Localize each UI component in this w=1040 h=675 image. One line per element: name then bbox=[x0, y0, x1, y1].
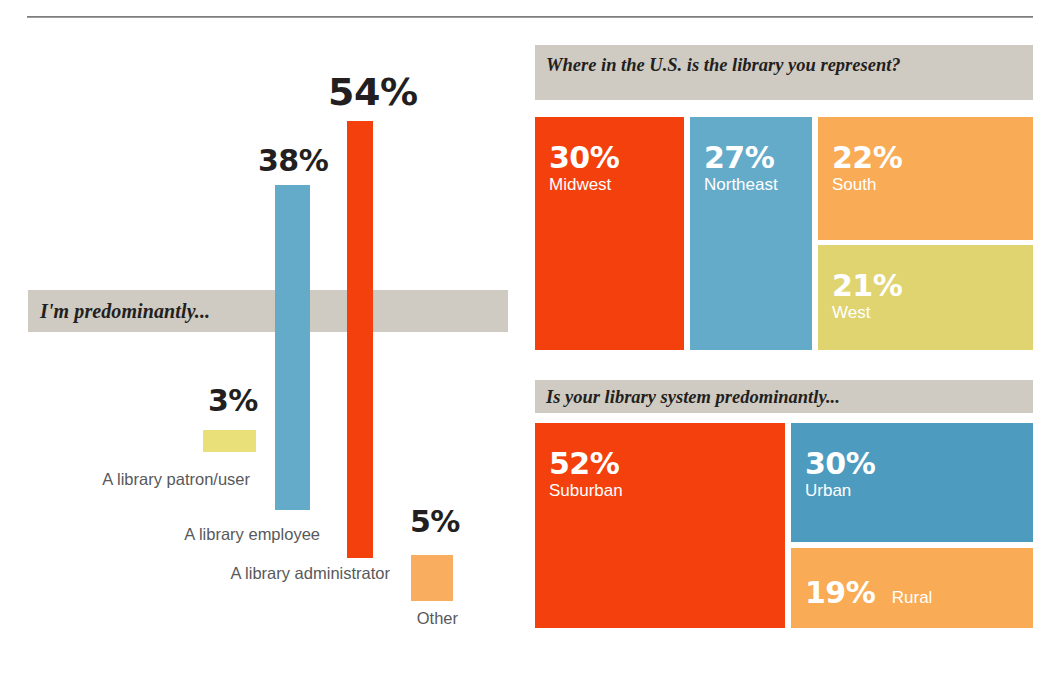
bar-value-employee: 38% bbox=[258, 143, 328, 178]
region-block-south: 22% South bbox=[818, 117, 1033, 240]
top-divider-rule bbox=[27, 16, 1033, 18]
bar-patron bbox=[203, 430, 256, 452]
region-northeast-name: Northeast bbox=[704, 174, 812, 196]
region-midwest-pct: 30% bbox=[549, 143, 684, 173]
bar-label-employee: A library employee bbox=[0, 525, 320, 544]
system-rural-pct: 19% bbox=[805, 575, 875, 610]
region-panel-header: Where in the U.S. is the library you rep… bbox=[535, 45, 1033, 100]
bar-employee bbox=[275, 185, 310, 510]
bar-label-administrator: A library administrator bbox=[0, 564, 390, 583]
bar-other bbox=[411, 555, 453, 601]
region-west-pct: 21% bbox=[832, 271, 1033, 301]
region-northeast-pct: 27% bbox=[704, 143, 812, 173]
region-panel: Where in the U.S. is the library you rep… bbox=[535, 45, 1033, 350]
region-block-west: 21% West bbox=[818, 245, 1033, 350]
system-block-urban: 30% Urban bbox=[791, 423, 1033, 542]
system-type-panel: Is your library system predominantly... … bbox=[535, 380, 1033, 628]
bar-label-patron: A library patron/user bbox=[0, 470, 250, 489]
bar-value-other: 5% bbox=[410, 504, 460, 539]
region-west-name: West bbox=[832, 302, 1033, 324]
system-suburban-pct: 52% bbox=[549, 449, 785, 479]
system-block-rural: 19% Rural bbox=[791, 548, 1033, 628]
system-block-suburban: 52% Suburban bbox=[535, 423, 785, 628]
bar-label-other: Other bbox=[350, 609, 458, 628]
system-suburban-name: Suburban bbox=[549, 480, 785, 502]
region-midwest-name: Midwest bbox=[549, 174, 684, 196]
region-block-midwest: 30% Midwest bbox=[535, 117, 684, 350]
system-urban-name: Urban bbox=[805, 480, 1033, 502]
bar-value-patron: 3% bbox=[208, 383, 258, 418]
bar-administrator bbox=[347, 121, 373, 558]
respondent-role-bar-chart: I'm predominantly... 3% A library patron… bbox=[0, 25, 515, 650]
bar-value-administrator: 54% bbox=[328, 70, 417, 114]
infographic-page: I'm predominantly... 3% A library patron… bbox=[0, 0, 1040, 675]
system-urban-pct: 30% bbox=[805, 449, 1033, 479]
region-block-northeast: 27% Northeast bbox=[690, 117, 812, 350]
region-south-pct: 22% bbox=[832, 143, 1033, 173]
system-panel-header: Is your library system predominantly... bbox=[535, 380, 1033, 413]
region-south-name: South bbox=[832, 174, 1033, 196]
system-rural-name: Rural bbox=[892, 588, 933, 607]
